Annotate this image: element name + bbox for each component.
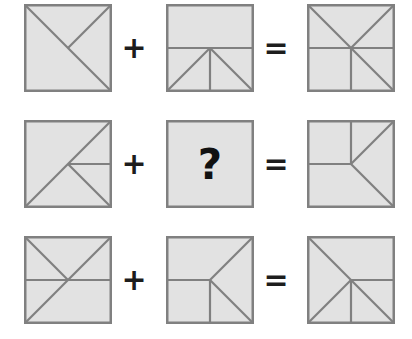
equals-operator: = (256, 236, 296, 324)
tile-row2-operand-a-shape (24, 120, 112, 208)
tile-row1-result[interactable] (307, 4, 395, 92)
equals-operator: = (256, 4, 296, 92)
tile-row3-operand-a[interactable] (24, 236, 112, 324)
tile-row1-operand-a-shape (24, 4, 112, 92)
plus-operator: + (114, 4, 154, 92)
tile-row1-operand-b-shape (166, 4, 254, 92)
tile-row2-result-shape (307, 120, 395, 208)
tile-row3-operand-b[interactable] (166, 236, 254, 324)
tile-row1-result-shape (307, 4, 395, 92)
puzzle-row-1: + = (0, 4, 412, 92)
puzzle-row-2: + ? = (0, 120, 412, 208)
plus-operator: + (114, 120, 154, 208)
tile-row2-operand-a[interactable] (24, 120, 112, 208)
plus-operator: + (114, 236, 154, 324)
tile-row3-result-shape (307, 236, 395, 324)
tile-row2-result[interactable] (307, 120, 395, 208)
puzzle-board: + = + ? = + = (0, 0, 412, 339)
tile-row1-operand-a[interactable] (24, 4, 112, 92)
tile-row3-operand-a-shape (24, 236, 112, 324)
puzzle-row-3: + = (0, 236, 412, 324)
equals-operator: = (256, 120, 296, 208)
tile-row1-operand-b[interactable] (166, 4, 254, 92)
tile-row3-operand-b-shape (166, 236, 254, 324)
tile-row3-result[interactable] (307, 236, 395, 324)
question-mark-label: ? (166, 120, 254, 208)
tile-row2-unknown[interactable]: ? (166, 120, 254, 208)
